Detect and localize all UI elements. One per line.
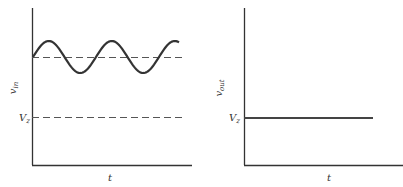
left-vz-label: Vz <box>19 112 30 125</box>
zener-regulation-diagram: vin Vz t vout Vz t <box>0 0 403 187</box>
left-plot: vin Vz t <box>7 8 192 183</box>
left-y-label: vin <box>7 81 20 94</box>
left-x-label: t <box>108 172 113 183</box>
right-x-label: t <box>327 172 332 183</box>
right-vz-label: Vz <box>229 112 240 125</box>
right-plot: vout Vz t <box>213 8 403 183</box>
right-y-label: vout <box>213 79 226 96</box>
